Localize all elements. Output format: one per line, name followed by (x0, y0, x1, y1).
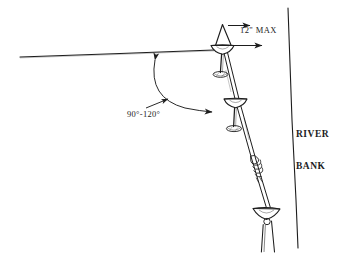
guy-line (224, 53, 272, 214)
angle-leader-arrow (146, 99, 168, 108)
angle-arc (154, 60, 212, 112)
diagram-canvas: 12" MAX 90°-120° RIVER BANK (0, 0, 338, 255)
river-bank-label-line-2: BANK (296, 161, 329, 172)
angle-label: 90°-120° (127, 110, 160, 120)
river-bank-label-line-1: RIVER (296, 129, 329, 140)
river-bank-label: RIVER BANK (296, 108, 329, 193)
dimension-label: 12" MAX (240, 26, 277, 36)
anchor-top (211, 45, 234, 78)
diagram-illustration (0, 0, 338, 255)
anchor-bottom (253, 208, 280, 252)
ground-line (20, 50, 214, 58)
